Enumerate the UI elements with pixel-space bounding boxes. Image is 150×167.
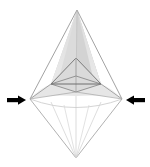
wireframe-figure (0, 0, 150, 167)
figure-container: 3D wireframe bipyramid with inward compr… (0, 0, 150, 167)
right-arrow-shaft (133, 98, 145, 102)
left-arrow-shaft (7, 98, 19, 102)
